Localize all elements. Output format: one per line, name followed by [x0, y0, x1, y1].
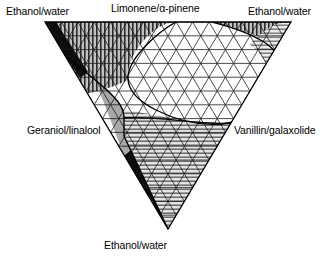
corner-label-left: Geraniol/linalool [27, 124, 101, 136]
corner-label-top-right: Ethanol/water [248, 5, 311, 17]
ternary-surface-mesh-figure: Ethanol/water Limonene/α-pinene Ethanol/… [0, 0, 328, 261]
corner-label-bottom: Ethanol/water [104, 239, 167, 251]
corner-label-top-left: Ethanol/water [6, 5, 69, 17]
corner-label-top-center: Limonene/α-pinene [111, 2, 199, 14]
corner-label-right: Vanillin/galaxolide [234, 124, 315, 136]
